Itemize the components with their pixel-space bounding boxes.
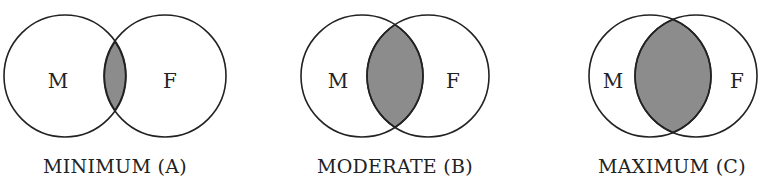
- label-m-c: M: [603, 69, 623, 93]
- label-m-a: M: [48, 69, 68, 93]
- caption-a: MINIMUM (A): [43, 155, 187, 177]
- caption-c: MAXIMUM (C): [598, 155, 746, 177]
- overlap-region-a: [104, 42, 125, 111]
- label-f-c: F: [730, 69, 744, 93]
- venn-diagram-a: M F MINIMUM (A): [4, 15, 226, 177]
- overlap-region-c: [635, 20, 711, 133]
- label-f-a: F: [163, 69, 177, 93]
- caption-b: MODERATE (B): [317, 155, 473, 177]
- venn-diagram-b: M F MODERATE (B): [301, 15, 489, 177]
- label-f-b: F: [446, 69, 460, 93]
- venn-diagram-c: M F MAXIMUM (C): [589, 15, 757, 177]
- label-m-b: M: [328, 69, 348, 93]
- venn-figure: M F MINIMUM (A) M F MODERATE (B) M F MAX…: [0, 0, 759, 189]
- overlap-region-b: [367, 25, 423, 128]
